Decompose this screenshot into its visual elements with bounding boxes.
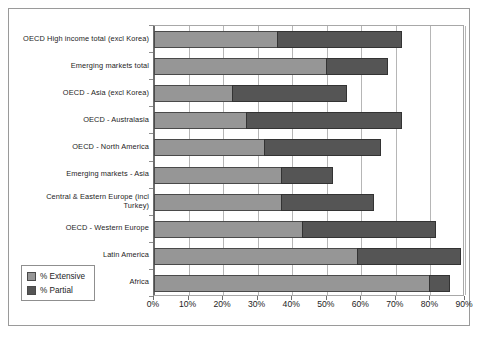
ytick-mark xyxy=(149,25,153,26)
ytick-mark xyxy=(149,215,153,216)
category-label: Emerging markets - Asia xyxy=(23,169,149,179)
bar-segment-partial[interactable] xyxy=(302,221,437,238)
bar-segment-extensive[interactable] xyxy=(154,139,265,156)
category-label: OECD - Western Europe xyxy=(23,223,149,233)
bar-segment-extensive[interactable] xyxy=(154,112,247,129)
bar-segment-extensive[interactable] xyxy=(154,85,233,102)
xtick-label-70pct: 70% xyxy=(386,299,403,309)
stacked-bar[interactable] xyxy=(154,194,374,211)
bar-row[interactable] xyxy=(154,26,463,53)
ytick-mark xyxy=(149,52,153,53)
stacked-bar[interactable] xyxy=(154,85,347,102)
xtick-label-10pct: 10% xyxy=(179,299,196,309)
stacked-bar[interactable] xyxy=(154,221,436,238)
ytick-mark xyxy=(149,161,153,162)
stacked-bar[interactable] xyxy=(154,275,450,292)
bar-segment-partial[interactable] xyxy=(277,31,401,48)
xtick-label-90pct: 90% xyxy=(455,299,472,309)
bar-row[interactable] xyxy=(154,270,463,297)
bar-row[interactable] xyxy=(154,189,463,216)
value-axis-labels: 0%10%20%30%40%50%60%70%80%90% xyxy=(153,299,464,315)
bar-segment-partial[interactable] xyxy=(246,112,402,129)
category-label: OECD High income total (excl Korea) xyxy=(23,34,149,44)
bar-rows xyxy=(154,26,463,295)
legend-swatch-extensive-icon xyxy=(27,272,36,281)
category-label: Emerging markets total xyxy=(23,61,149,71)
plot-area xyxy=(153,25,464,296)
ytick-mark xyxy=(149,296,153,297)
bar-segment-partial[interactable] xyxy=(429,275,450,292)
bar-segment-extensive[interactable] xyxy=(154,248,358,265)
xtick-label-30pct: 30% xyxy=(248,299,265,309)
bar-row[interactable] xyxy=(154,134,463,161)
category-label: OECD - Asia (excl Korea) xyxy=(23,88,149,98)
bar-segment-partial[interactable] xyxy=(264,139,381,156)
ytick-mark xyxy=(149,106,153,107)
bar-segment-partial[interactable] xyxy=(281,167,333,184)
chart-legend: % Extensive % Partial xyxy=(21,265,95,301)
xtick-label-0pct: 0% xyxy=(147,299,159,309)
legend-label-partial: % Partial xyxy=(40,286,73,295)
stacked-bar[interactable] xyxy=(154,139,381,156)
bar-row[interactable] xyxy=(154,107,463,134)
bar-segment-partial[interactable] xyxy=(326,58,388,75)
bar-row[interactable] xyxy=(154,162,463,189)
category-label: OECD - Australasia xyxy=(23,115,149,125)
xtick-label-80pct: 80% xyxy=(421,299,438,309)
category-label: OECD - North America xyxy=(23,142,149,152)
stacked-bar[interactable] xyxy=(154,31,402,48)
bar-segment-extensive[interactable] xyxy=(154,58,327,75)
category-axis-labels: OECD High income total (excl Korea)Emerg… xyxy=(23,25,149,296)
stacked-bar[interactable] xyxy=(154,167,333,184)
xtick-label-50pct: 50% xyxy=(317,299,334,309)
ytick-mark xyxy=(149,242,153,243)
bar-segment-partial[interactable] xyxy=(357,248,461,265)
bar-row[interactable] xyxy=(154,80,463,107)
category-label: Latin America xyxy=(23,250,149,260)
bar-segment-extensive[interactable] xyxy=(154,194,282,211)
ytick-mark xyxy=(149,133,153,134)
legend-label-extensive: % Extensive xyxy=(40,272,85,281)
gridline-90pct xyxy=(465,26,466,295)
legend-item-extensive: % Extensive xyxy=(27,272,90,281)
ytick-mark xyxy=(149,79,153,80)
ytick-mark xyxy=(149,188,153,189)
chart-frame: OECD High income total (excl Korea)Emerg… xyxy=(8,8,470,326)
ytick-mark xyxy=(149,269,153,270)
bar-row[interactable] xyxy=(154,243,463,270)
legend-swatch-partial-icon xyxy=(27,286,36,295)
bar-segment-partial[interactable] xyxy=(232,85,346,102)
xtick-label-40pct: 40% xyxy=(283,299,300,309)
xtick-label-60pct: 60% xyxy=(352,299,369,309)
xtick-label-20pct: 20% xyxy=(214,299,231,309)
bar-segment-partial[interactable] xyxy=(281,194,374,211)
stacked-bar[interactable] xyxy=(154,58,388,75)
bar-segment-extensive[interactable] xyxy=(154,167,282,184)
bar-segment-extensive[interactable] xyxy=(154,275,430,292)
bar-segment-extensive[interactable] xyxy=(154,221,303,238)
category-label: Central & Eastern Europe (incl Turkey) xyxy=(23,192,149,211)
bar-segment-extensive[interactable] xyxy=(154,31,278,48)
stacked-bar[interactable] xyxy=(154,248,461,265)
legend-item-partial: % Partial xyxy=(27,286,90,295)
bar-row[interactable] xyxy=(154,216,463,243)
bar-row[interactable] xyxy=(154,53,463,80)
stacked-bar[interactable] xyxy=(154,112,402,129)
